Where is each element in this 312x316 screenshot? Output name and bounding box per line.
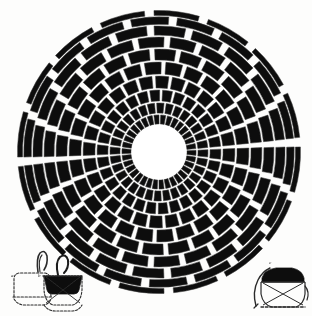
dome-block: [149, 216, 162, 228]
dome-block: [157, 103, 164, 113]
dome-block: [44, 131, 56, 157]
dome-block: [150, 90, 160, 101]
dome-block: [165, 62, 183, 76]
dome-block: [154, 255, 180, 267]
dome-block: [69, 139, 82, 156]
dome-block: [97, 145, 108, 155]
dome-plan-figure: a b c: [0, 0, 312, 316]
dome-block: [138, 37, 164, 49]
dome-block: [158, 203, 168, 214]
dome-block: [250, 148, 262, 169]
dome-block: [56, 135, 68, 156]
dome-block: [156, 76, 169, 88]
dome-block: [144, 62, 161, 75]
dome-block: [122, 149, 131, 154]
dome-block: [262, 147, 274, 173]
dome-block: [157, 229, 174, 242]
oculus-opening: [132, 125, 186, 179]
dome-block: [142, 243, 163, 255]
dome-block: [210, 149, 221, 159]
dome-block: [135, 227, 153, 241]
dome-block: [198, 150, 208, 157]
figure-root: a b c: [0, 0, 312, 316]
dome-block: [223, 149, 235, 162]
dome-block: [187, 150, 196, 155]
dome-block: [154, 191, 161, 201]
dome-block: [110, 147, 120, 154]
dome-block: [236, 148, 249, 165]
dome-block: [83, 142, 95, 155]
dome-block: [155, 49, 176, 61]
